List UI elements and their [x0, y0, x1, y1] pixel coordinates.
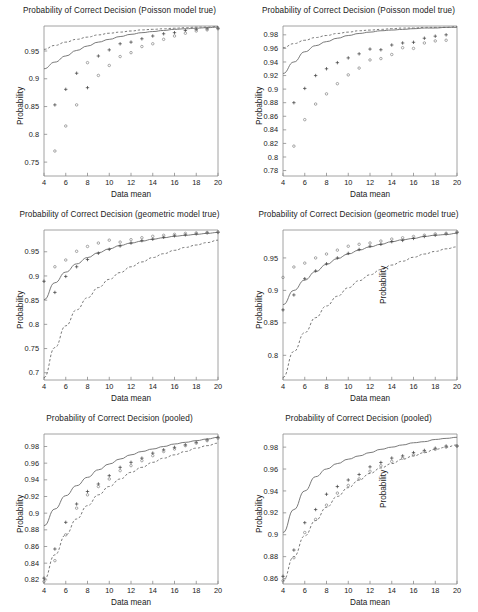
y-tick-label: 0.98 [264, 30, 278, 39]
x-tick-label: 14 [388, 178, 396, 187]
plot-area: 4681012141618200.70.750.80.850.90.95 [0, 204, 239, 408]
plus-marker [314, 508, 317, 511]
plot-area: 4681012141618200.80.850.90.95 [239, 204, 478, 408]
plus-marker [390, 456, 393, 459]
y-tick-label: 0.75 [25, 158, 39, 167]
x-tick-label: 8 [85, 382, 89, 391]
panel-title: Probability of Correct Decision (Poisson… [239, 6, 478, 15]
circle-marker [130, 238, 133, 241]
x-tick-label: 8 [324, 382, 328, 391]
y-tick-label: 0.95 [25, 247, 39, 256]
x-tick-label: 10 [344, 382, 352, 391]
y-tick-label: 0.78 [264, 166, 278, 175]
circle-marker [108, 478, 111, 481]
x-tick-label: 10 [105, 586, 113, 595]
circle-marker [86, 61, 89, 64]
y-axis-label: Probability [16, 87, 25, 125]
y-tick-label: 0.75 [25, 344, 39, 353]
plus-marker [140, 37, 143, 40]
x-tick-label: 4 [42, 178, 46, 187]
plus-marker [325, 493, 328, 496]
axis-frame [44, 26, 218, 176]
plus-marker [379, 243, 382, 246]
circle-marker [119, 55, 122, 58]
plus-marker [108, 474, 111, 477]
plus-marker [42, 280, 45, 283]
circle-marker [380, 57, 383, 60]
plot-panel: Probability of Correct Decision (geometr… [239, 204, 478, 408]
y-tick-label: 0.92 [264, 71, 278, 80]
x-tick-label: 20 [214, 586, 222, 595]
circle-marker [54, 150, 57, 153]
y-tick-label: 0.95 [264, 254, 278, 263]
axis-frame [283, 230, 457, 380]
x-tick-label: 6 [303, 178, 307, 187]
plus-marker [162, 32, 165, 35]
plus-marker [129, 40, 132, 43]
x-tick-label: 10 [105, 382, 113, 391]
plus-marker [64, 88, 67, 91]
plus-marker [108, 248, 111, 251]
x-tick-label: 16 [170, 382, 178, 391]
circle-marker [152, 235, 155, 238]
circle-marker [54, 559, 57, 562]
plus-marker [173, 31, 176, 34]
dashed-curve [44, 27, 218, 50]
plus-marker [75, 265, 78, 268]
y-tick-label: 0.96 [25, 459, 39, 468]
x-tick-label: 18 [431, 382, 439, 391]
circle-marker [369, 59, 372, 62]
circle-marker [86, 494, 89, 497]
plot-panel: Probability of Correct Decision (geometr… [0, 204, 239, 408]
x-tick-label: 8 [324, 178, 328, 187]
circle-marker [119, 469, 122, 472]
plus-marker [423, 37, 426, 40]
plus-marker [336, 485, 339, 488]
plus-marker [303, 87, 306, 90]
y-tick-label: 0.82 [25, 575, 39, 584]
x-tick-label: 8 [324, 586, 328, 595]
x-tick-label: 14 [149, 586, 157, 595]
plus-marker [184, 29, 187, 32]
x-tick-label: 18 [192, 382, 200, 391]
x-tick-label: 14 [149, 178, 157, 187]
plus-marker [129, 461, 132, 464]
x-tick-label: 20 [453, 586, 461, 595]
circle-marker [54, 266, 57, 269]
plus-marker [108, 48, 111, 51]
x-tick-label: 10 [105, 178, 113, 187]
circle-marker [97, 74, 100, 77]
circle-marker [75, 507, 78, 510]
x-tick-label: 16 [409, 382, 417, 391]
circle-marker [130, 51, 133, 54]
x-tick-label: 14 [388, 382, 396, 391]
plus-marker [357, 473, 360, 476]
y-tick-label: 0.8 [29, 320, 39, 329]
circle-marker [65, 125, 68, 128]
x-tick-label: 4 [42, 586, 46, 595]
y-tick-label: 0.98 [25, 442, 39, 451]
x-tick-label: 10 [344, 178, 352, 187]
circle-marker [108, 239, 111, 242]
circle-marker [314, 257, 317, 260]
y-axis-label: Probability [16, 291, 25, 329]
plot-area: 4681012141618200.820.840.860.880.90.920.… [0, 408, 239, 612]
x-tick-label: 8 [85, 586, 89, 595]
plot-area: 4681012141618200.780.80.820.840.860.880.… [239, 0, 478, 204]
plus-marker [118, 42, 121, 45]
y-tick-label: 0.8 [268, 153, 278, 162]
y-tick-label: 0.96 [264, 44, 278, 53]
plus-marker [97, 252, 100, 255]
plus-marker [347, 56, 350, 59]
y-tick-label: 0.9 [29, 509, 39, 518]
plus-marker [86, 86, 89, 89]
plus-marker [75, 72, 78, 75]
circle-marker [314, 103, 317, 106]
plus-marker [390, 43, 393, 46]
circle-marker [358, 243, 361, 246]
circle-marker [141, 45, 144, 48]
x-tick-label: 10 [344, 586, 352, 595]
x-tick-label: 12 [366, 586, 374, 595]
y-tick-label: 0.85 [25, 296, 39, 305]
x-tick-label: 6 [303, 382, 307, 391]
